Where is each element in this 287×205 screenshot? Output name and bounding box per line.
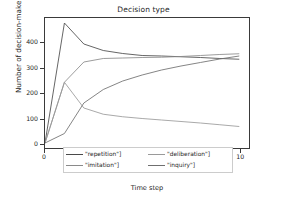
legend-label: "deliberation"] <box>167 152 210 158</box>
legend-line-icon <box>66 154 83 155</box>
y-tick-label: 200 <box>4 89 38 96</box>
series-lines <box>45 18 249 148</box>
legend-line-icon <box>148 165 165 166</box>
legend-line-icon <box>66 165 83 166</box>
y-tick-label: 100 <box>4 115 38 122</box>
y-tick-label: 0 <box>4 140 38 147</box>
y-tick-label: 400 <box>4 38 38 45</box>
series-line <box>45 56 239 143</box>
legend-label: "inquiry"] <box>167 163 195 169</box>
legend-label: "repetition"] <box>85 152 121 158</box>
y-axis-label: Number of decision-makers <box>14 0 23 114</box>
x-tick-mark <box>44 149 45 153</box>
legend-label: "imitation"] <box>85 163 119 169</box>
x-axis-label: Time step <box>44 184 250 192</box>
x-tick-mark <box>240 149 241 153</box>
series-line <box>45 23 239 143</box>
x-tick-label: 0 <box>34 153 54 160</box>
legend-item-inquiry: "inquiry"] <box>148 163 230 169</box>
legend-item-repetition: "repetition"] <box>66 152 148 158</box>
x-tick-label: 10 <box>230 153 250 160</box>
legend-item-deliberation: "deliberation"] <box>148 152 230 158</box>
series-line <box>45 54 239 143</box>
chart-figure: Decision type Number of decision-makers … <box>0 0 287 205</box>
plot-area <box>44 17 250 149</box>
chart-title: Decision type <box>0 5 287 14</box>
legend-item-imitation: "imitation"] <box>66 163 148 169</box>
series-line <box>45 82 239 143</box>
chart-legend: "repetition"] "deliberation"] "imitation… <box>63 147 233 173</box>
legend-line-icon <box>148 154 165 155</box>
y-tick-label: 300 <box>4 64 38 71</box>
